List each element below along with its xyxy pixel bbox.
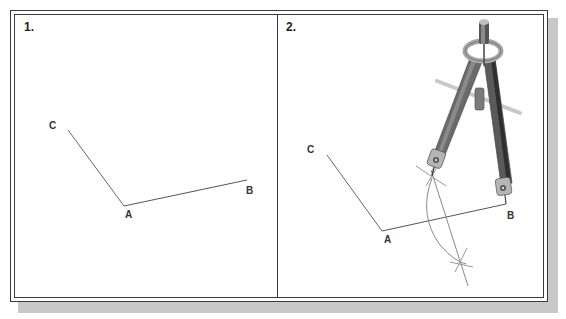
intersection-mark-upper [416,166,446,186]
panel-2-angle: C A B [307,144,514,286]
compass-handle-highlight [481,22,485,44]
point-b-label: B [507,210,514,221]
point-a-label: A [384,234,391,245]
compass-icon [426,19,520,204]
compass-handle-cap [479,19,489,25]
compass-screw [475,88,484,110]
compass-left-leg-highlight [436,60,476,158]
ray-ac [68,130,124,206]
point-c-label: C [49,120,56,131]
construction-arc [427,178,466,264]
ray-ab [382,204,506,231]
panel-1-angle: C A B [49,120,253,220]
point-c-label: C [307,144,314,155]
point-b-label: B [246,185,253,196]
compass-right-foot [495,177,512,204]
bisector-line [431,170,468,286]
ray-ac [327,155,382,231]
point-a-label: A [125,209,132,220]
geometry-scene: C A B C A B [0,0,566,319]
compass-left-foot [426,148,446,176]
ray-ab [124,180,247,206]
